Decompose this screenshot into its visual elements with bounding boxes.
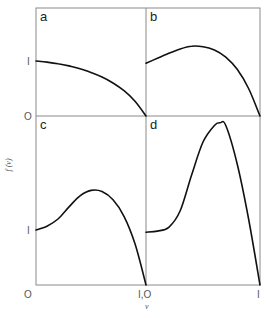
y-tick-top-one: I [27,56,30,67]
panel-frames [36,8,260,285]
curve-panel-c [36,190,146,285]
figure-canvas: a b c d I O I O I,O I ν f (ν) [0,0,267,318]
panel-label-a: a [40,9,48,24]
curve-panel-d [146,122,260,285]
y-tick-bottom-one: I [27,225,30,236]
curve-panel-a [36,61,146,116]
x-tick-mid: I,O [138,289,152,300]
curve-panel-b [146,46,260,116]
x-tick-right: I [257,289,260,300]
panel-label-d: d [150,117,157,132]
x-axis-label: ν [145,302,149,311]
outer-frame [36,8,260,285]
panel-label-c: c [40,117,47,132]
y-axis-label: f (ν) [4,158,13,171]
y-tick-bottom-zero: O [24,289,32,300]
y-tick-top-zero: O [24,111,32,122]
panel-label-b: b [150,9,157,24]
